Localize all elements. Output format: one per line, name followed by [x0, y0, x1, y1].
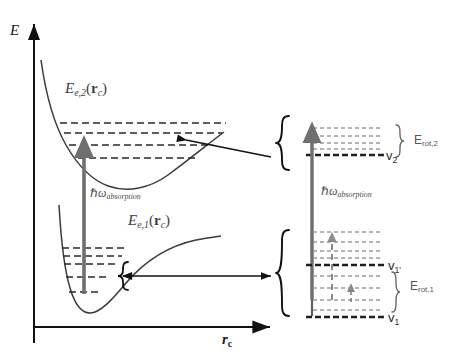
potential-energy-diagram: E rc Ee,2(rc) Ee,1(rc) ℏωabsorption ℏωab…	[0, 0, 457, 363]
vib-label-v2: v2	[386, 149, 397, 162]
lower-arg-sub: c	[161, 219, 165, 230]
left-absorption-subscript: absorption	[106, 192, 140, 201]
upper-arg-r: r	[91, 80, 98, 96]
erot2-label: Erot,2	[414, 134, 438, 146]
coordinate-axis-label-sub: c	[228, 338, 232, 349]
relaxation-arrows	[332, 234, 351, 302]
upper-potential-label-state: e,2	[74, 87, 86, 98]
right-absorption-label: ℏωabsorption	[321, 185, 372, 197]
lower-potential-label-state: e,1	[137, 219, 149, 230]
vib-label-v2-sub: 2	[393, 155, 398, 165]
erot1-bracket	[392, 272, 400, 312]
erot2-label-sub: rot,2	[422, 139, 438, 148]
vib-label-v1prime-sub: 1'	[395, 265, 401, 275]
upper-manifold-brace	[276, 116, 289, 170]
upper-arg-sub: c	[98, 87, 102, 98]
vib-label-v1: v1	[388, 311, 399, 324]
diagram-canvas	[0, 0, 457, 363]
left-absorption-label: ℏωabsorption	[90, 187, 141, 199]
left-hbar-glyph: ℏ	[90, 186, 98, 200]
lower-paren-close: )	[165, 212, 170, 228]
erot1-label: Erot,1	[410, 280, 434, 292]
upper-connector-arrow	[186, 140, 271, 157]
vib-label-v1-sub: 1	[395, 317, 400, 327]
erot1-label-sub: rot,1	[418, 285, 434, 294]
lower-arg-r: r	[154, 212, 161, 228]
upper-potential-label: Ee,2(rc)	[65, 81, 107, 96]
right-hbar-glyph: ℏ	[321, 184, 329, 198]
lower-manifold-brace	[276, 230, 289, 316]
coordinate-axis-label: rc	[222, 332, 232, 347]
upper-paren-close: )	[102, 80, 107, 96]
lower-potential-label: Ee,1(rc)	[128, 213, 170, 228]
energy-axis-label: E	[10, 23, 19, 38]
lower-rotational-lines	[306, 232, 400, 317]
lower-vibrational-levels	[62, 248, 126, 292]
vib-label-v1prime: v1'	[388, 259, 401, 272]
panel-connectors	[123, 140, 271, 276]
right-panel-braces	[276, 116, 289, 316]
right-absorption-subscript: absorption	[337, 190, 371, 199]
